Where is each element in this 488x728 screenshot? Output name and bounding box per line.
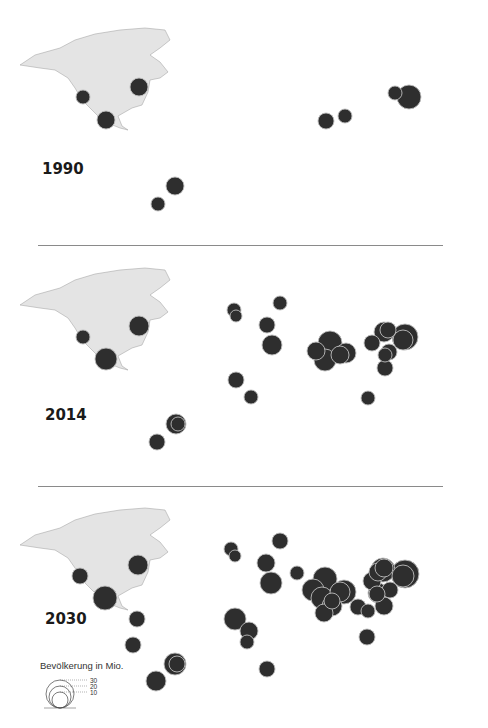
city-bubble: [338, 109, 352, 123]
year-label: 2014: [45, 406, 87, 424]
city-bubble: [228, 372, 244, 388]
city-bubble: [76, 330, 90, 344]
city-bubble: [273, 296, 287, 310]
city-bubble: [149, 434, 165, 450]
city-bubble: [324, 593, 340, 609]
city-bubble: [95, 348, 117, 370]
city-bubble: [93, 586, 117, 610]
city-bubble: [230, 310, 242, 322]
landmasses: [20, 28, 170, 130]
city-bubble: [244, 390, 258, 404]
city-bubble: [290, 566, 304, 580]
city-bubble: [240, 635, 254, 649]
city-bubble: [97, 111, 115, 129]
city-bubble: [259, 317, 275, 333]
city-bubble: [364, 335, 380, 351]
legend-size-label: 10: [90, 689, 98, 696]
year-label: 1990: [42, 160, 84, 178]
map-panel-2014: 2014: [0, 240, 488, 480]
city-bubble: [388, 86, 402, 100]
city-bubble: [130, 78, 148, 96]
city-bubble: [359, 629, 375, 645]
city-bubble: [375, 559, 393, 577]
city-bubble: [262, 335, 282, 355]
city-bubble: [307, 342, 325, 360]
year-label: 2030: [45, 610, 87, 628]
city-bubble: [151, 197, 165, 211]
legend-size-key: 302010: [40, 672, 120, 712]
city-bubble: [259, 661, 275, 677]
city-bubble: [169, 656, 185, 672]
world-map: [0, 0, 488, 240]
landmasses: [20, 268, 170, 370]
legend-title: Bevölkerung in Mio.: [40, 660, 123, 671]
city-bubble: [229, 550, 241, 562]
legend-size-circle: [52, 692, 68, 708]
city-bubble: [272, 533, 288, 549]
world-map: [0, 240, 488, 480]
city-bubble: [125, 637, 141, 653]
legend-size-circle: [46, 680, 74, 708]
city-bubble: [380, 322, 396, 338]
city-bubble: [369, 586, 385, 602]
city-bubble: [128, 555, 148, 575]
map-panel-1990: 1990: [0, 0, 488, 240]
city-bubble: [378, 348, 392, 362]
city-bubble: [361, 604, 375, 618]
city-bubble: [260, 572, 282, 594]
city-bubble: [146, 671, 166, 691]
city-bubble: [318, 113, 334, 129]
legend-circles: 302010: [44, 677, 98, 709]
city-bubble: [331, 346, 349, 364]
city-bubble: [257, 554, 275, 572]
city-bubble: [361, 391, 375, 405]
city-bubble: [129, 316, 149, 336]
city-bubble: [72, 568, 88, 584]
city-bubble: [393, 330, 413, 350]
city-bubble: [76, 90, 90, 104]
city-bubble: [171, 417, 185, 431]
city-bubble: [129, 611, 145, 627]
city-bubble: [166, 177, 184, 195]
